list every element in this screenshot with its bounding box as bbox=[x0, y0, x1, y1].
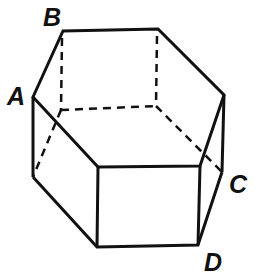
label-A: A bbox=[7, 84, 25, 109]
edge-C-vertical bbox=[222, 95, 224, 172]
label-D: D bbox=[204, 250, 222, 275]
hexagonal-prism-drawing bbox=[0, 0, 267, 279]
hidden-edge-back-right bbox=[156, 106, 222, 172]
hidden-edge-back-right-vertical bbox=[156, 36, 157, 106]
edge-front-left-vertical bbox=[97, 167, 98, 247]
bottom-visible-edges bbox=[33, 172, 222, 247]
hidden-edge-back-left bbox=[33, 110, 61, 177]
edge-front-right-vertical bbox=[198, 166, 200, 245]
label-C: C bbox=[229, 172, 247, 197]
label-B: B bbox=[43, 5, 61, 30]
hidden-edge-B-vertical bbox=[61, 38, 62, 110]
hidden-edge-back bbox=[61, 106, 156, 110]
